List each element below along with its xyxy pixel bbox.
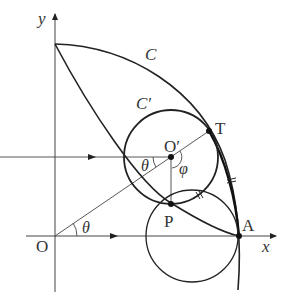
label-angle-theta-center: θ: [141, 157, 149, 174]
label-angle-theta-origin: θ: [82, 219, 90, 236]
point-p-dot: [168, 201, 174, 207]
label-x-axis: x: [261, 237, 270, 256]
arc-t-to-a: [209, 131, 239, 236]
label-y-axis: y: [36, 9, 46, 28]
arrowhead-upper-icon: [88, 154, 96, 160]
arrowhead-x-icon: [110, 233, 118, 239]
label-curve-c-prime: C′: [136, 94, 151, 113]
label-center-oprime: O′: [164, 137, 180, 156]
geometry-diagram: y x O C C′ O′ T P A θ θ φ: [0, 0, 291, 297]
angle-theta-center-arc: [153, 157, 156, 167]
point-t-dot: [206, 128, 212, 134]
angle-theta-origin-arc: [73, 223, 77, 236]
curve-c-prime: [55, 44, 239, 236]
label-point-p: P: [164, 212, 173, 231]
label-curve-c: C: [145, 45, 157, 64]
label-point-a: A: [242, 216, 255, 235]
label-origin: O: [36, 237, 48, 256]
label-angle-phi: φ: [179, 160, 188, 178]
label-point-t: T: [215, 119, 226, 138]
